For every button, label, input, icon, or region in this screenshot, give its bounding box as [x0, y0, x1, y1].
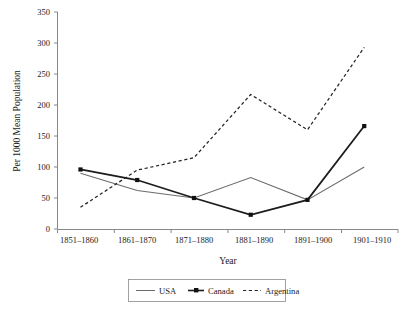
y-tick-label: 100 — [37, 162, 50, 172]
legend-label-usa: USA — [159, 286, 177, 296]
y-tick-label: 150 — [37, 131, 50, 141]
data-point-marker — [362, 124, 366, 128]
y-tick-label: 0 — [46, 224, 50, 234]
data-point-marker — [78, 167, 82, 171]
data-point-marker — [249, 213, 253, 217]
legend-label-argentina: Argentina — [265, 286, 299, 296]
y-tick-label: 50 — [42, 193, 51, 203]
legend-marker-canada-icon — [194, 288, 198, 292]
y-tick-label: 350 — [37, 7, 50, 17]
x-tick-label: 1861–1870 — [118, 235, 156, 245]
data-point-marker — [192, 196, 196, 200]
y-tick-label: 300 — [37, 38, 50, 48]
chart-legend: USA Canada Argentina — [129, 280, 300, 302]
x-tick-label: 1881–1890 — [235, 235, 273, 245]
data-point-marker — [135, 178, 139, 182]
data-point-marker — [305, 198, 309, 202]
x-tick-label: 1871–1880 — [175, 235, 213, 245]
chart-background — [0, 0, 412, 312]
y-axis-title: Per 1000 Mean Population — [12, 70, 22, 172]
y-tick-label: 200 — [37, 100, 50, 110]
x-tick-label: 1891–1900 — [294, 235, 332, 245]
y-tick-label: 250 — [37, 69, 50, 79]
x-tick-label: 1901–1910 — [353, 235, 391, 245]
chart-figure: 350 300 250 200 150 100 50 0 Per 1000 Me… — [0, 0, 412, 312]
x-tick-label: 1851–1860 — [60, 235, 98, 245]
legend-label-canada: Canada — [208, 286, 234, 296]
x-axis-title: Year — [219, 256, 237, 266]
